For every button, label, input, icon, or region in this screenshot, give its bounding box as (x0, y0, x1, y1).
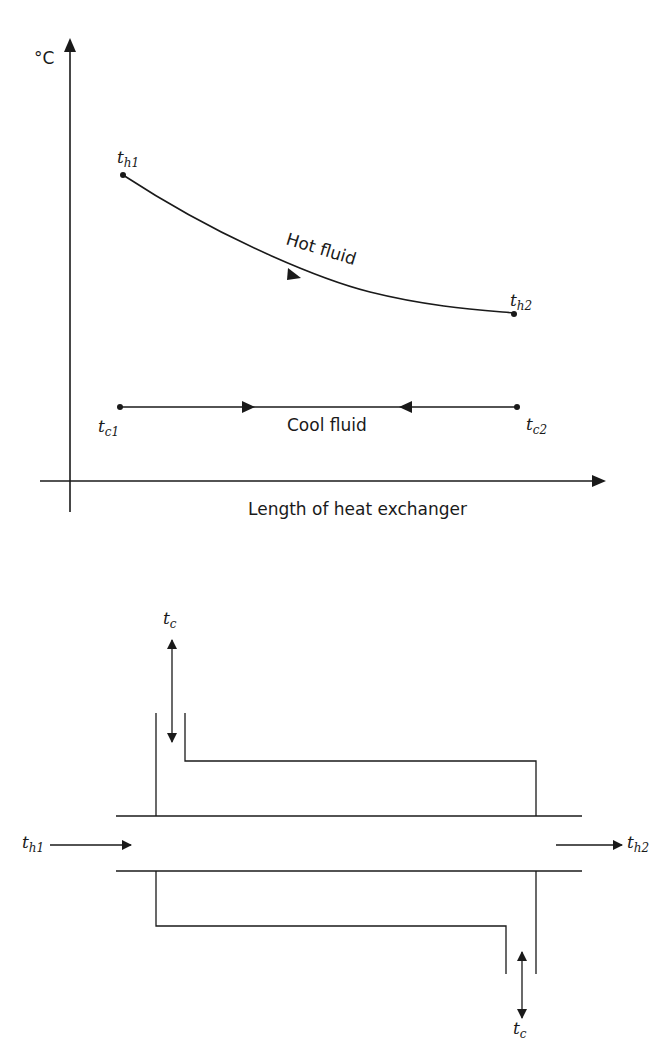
tc2-label: tc2 (526, 414, 547, 437)
y-axis-label: °C (34, 48, 54, 68)
th2-label: th2 (510, 290, 532, 313)
hot-flow-arrow-icon (287, 268, 301, 280)
cool-fluid-label: Cool fluid (287, 415, 367, 435)
hot-fluid-label: Hot fluid (284, 229, 359, 269)
y-axis-arrow-icon (64, 38, 76, 52)
th2-outlet-label: th2 (627, 832, 649, 855)
tc1-point (117, 404, 123, 410)
shell-top-outer-wall (185, 713, 536, 816)
temperature-graph: °C Length of heat exchanger Hot fluid th… (34, 38, 606, 519)
tc2-point (514, 404, 520, 410)
heat-exchanger-figure: °C Length of heat exchanger Hot fluid th… (0, 0, 666, 1044)
tc-top-label: tc (163, 608, 177, 631)
th1-label: th1 (117, 147, 139, 170)
x-axis-arrow-icon (592, 475, 606, 487)
cool-flow-left-arrow-icon (399, 401, 412, 413)
th1-inlet-label: th1 (22, 832, 44, 855)
x-axis-label: Length of heat exchanger (248, 499, 467, 519)
th1-point (120, 172, 126, 178)
shell-bottom-outer-wall (156, 871, 506, 974)
tc1-label: tc1 (98, 416, 119, 439)
cool-flow-right-arrow-icon (242, 401, 255, 413)
tc-bottom-label: tc (513, 1018, 527, 1041)
exchanger-schematic: tc tc th1 th2 (22, 608, 649, 1041)
